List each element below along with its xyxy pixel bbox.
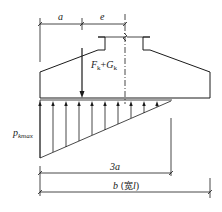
pressure-diagram	[40, 100, 172, 158]
label-load: Fk+Gk	[91, 60, 117, 72]
foundation-diagram: a e Fk+Gk pkmax 3a b (宽l)	[0, 0, 222, 212]
pressure-arrows	[38, 101, 158, 158]
diagram-drawing	[0, 0, 222, 212]
label-b: b (宽l)	[113, 181, 139, 191]
label-a: a	[58, 12, 63, 22]
label-e: e	[100, 12, 104, 22]
label-pkmax: pkmax	[13, 128, 33, 140]
label-3a: 3a	[110, 162, 120, 172]
